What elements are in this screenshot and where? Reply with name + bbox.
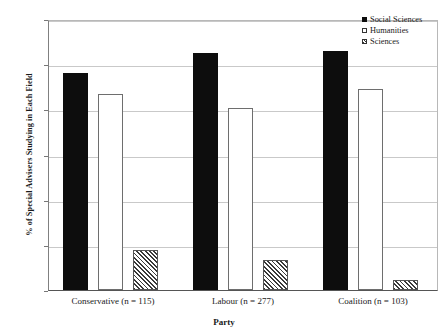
hatched-square-icon (362, 39, 367, 44)
bar-sciences-1 (263, 260, 288, 290)
bar-social-sciences-1 (193, 53, 218, 290)
bar-social-sciences-2 (323, 51, 348, 290)
plot-area (48, 20, 438, 291)
x-tick-label: Coalition (n = 103) (293, 296, 448, 306)
legend-label: Humanities (370, 25, 409, 36)
grid-line (49, 66, 437, 67)
bar-sciences-0 (133, 250, 158, 290)
x-axis-title: Party (0, 317, 448, 327)
bar-humanities-1 (228, 108, 253, 290)
y-axis-title: % of Special Advisers Studying in Each F… (25, 30, 34, 280)
legend-label: Sciences (370, 36, 399, 47)
bar-humanities-0 (98, 94, 123, 290)
bar-sciences-2 (393, 280, 418, 290)
bar-humanities-2 (358, 89, 383, 290)
legend-item-sciences: Sciences (362, 36, 422, 47)
bar-social-sciences-0 (63, 73, 88, 290)
y-tick-mark (44, 291, 48, 292)
legend-label: Social Sciences (370, 14, 422, 25)
chart-legend: Social Sciences Humanities Sciences (362, 14, 422, 48)
bar-chart-figure: % of Special Advisers Studying in Each F… (0, 0, 448, 336)
legend-item-humanities: Humanities (362, 25, 422, 36)
legend-item-social-sciences: Social Sciences (362, 14, 422, 25)
filled-square-icon (362, 17, 367, 22)
open-square-icon (362, 28, 367, 33)
